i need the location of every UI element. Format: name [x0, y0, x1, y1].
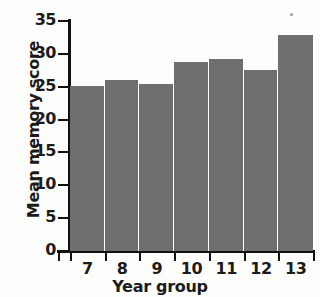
bar-year-12 [244, 70, 279, 251]
x-tick-8 [105, 251, 107, 261]
y-tick-label-15: 15 [16, 143, 56, 159]
y-tick-5 [58, 217, 69, 219]
y-tick-label-20: 20 [16, 111, 56, 127]
y-tick-label-25: 25 [16, 78, 56, 94]
x-tick-label-12: 12 [243, 261, 279, 277]
x-tick-label-9: 9 [139, 261, 175, 277]
bar-year-9 [139, 84, 174, 251]
x-tick-label-11: 11 [208, 261, 244, 277]
y-tick-label-5: 5 [16, 209, 56, 225]
plot-area [70, 21, 313, 251]
y-tick-25 [58, 86, 69, 88]
x-tick-12 [244, 251, 246, 261]
x-tick-7 [70, 251, 72, 261]
y-tick-35 [58, 20, 69, 22]
y-tick-label-0: 0 [16, 242, 56, 258]
x-tick-label-13: 13 [278, 261, 314, 277]
bar-year-10 [174, 62, 209, 251]
y-axis-title: Mean memory score [24, 35, 43, 225]
bar-year-7 [70, 86, 105, 251]
y-tick-label-30: 30 [16, 45, 56, 61]
bar-year-11 [209, 59, 244, 251]
bar-year-8 [105, 80, 140, 252]
x-tick-label-7: 7 [69, 261, 105, 277]
x-axis-title: Year group [0, 277, 320, 296]
page-speck [290, 13, 293, 16]
x-tick-13 [278, 251, 280, 261]
x-tick-11 [209, 251, 211, 261]
x-tick-end [313, 251, 315, 261]
bar-year-13 [278, 35, 313, 251]
x-tick-9 [139, 251, 141, 261]
x-tick-origin [58, 251, 60, 261]
y-tick-label-10: 10 [16, 176, 56, 192]
y-tick-label-35: 35 [16, 12, 56, 28]
x-tick-label-8: 8 [104, 261, 140, 277]
x-tick-label-10: 10 [174, 261, 210, 277]
x-tick-10 [174, 251, 176, 261]
bar-chart: Mean memory score 05101520253035 7891011… [0, 0, 320, 297]
y-tick-15 [58, 151, 69, 153]
y-tick-30 [58, 53, 69, 55]
y-tick-10 [58, 184, 69, 186]
y-tick-20 [58, 119, 69, 121]
